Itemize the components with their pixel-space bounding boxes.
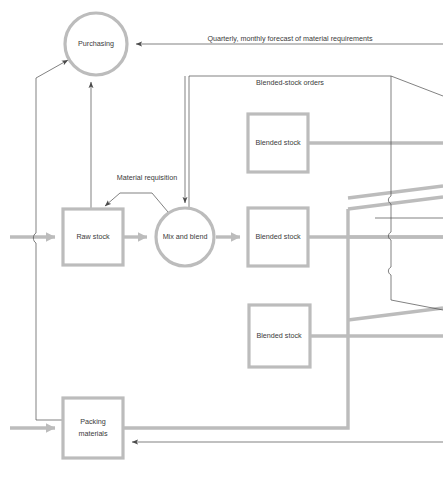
node-blended-stock-1[interactable]: Blended stock (248, 114, 308, 172)
node-packing-materials-label-line1: Packing (80, 417, 106, 426)
node-mix-and-blend[interactable]: Mix and blend (156, 208, 214, 266)
node-blended-stock-1-label: Blended stock (255, 138, 301, 147)
node-packing-materials[interactable]: Packing materials (63, 398, 123, 458)
flow-diagram-canvas: Purchasing Raw stock Mix and blend Blend… (0, 0, 443, 479)
node-purchasing-label: Purchasing (78, 39, 114, 48)
node-raw-stock-label: Raw stock (76, 232, 110, 241)
node-blended-stock-3-label: Blended stock (256, 331, 302, 340)
label-material-requisition: Material requisition (117, 173, 177, 182)
node-blended-stock-2[interactable]: Blended stock (248, 208, 308, 266)
node-packing-materials-label-line2: materials (78, 429, 108, 438)
label-forecast: Quarterly, monthly forecast of material … (207, 34, 373, 43)
node-purchasing[interactable]: Purchasing (65, 13, 127, 75)
flow-blendedstock1-branch (348, 186, 443, 198)
flow-packing-branch-lower (348, 308, 443, 320)
process-flow-diagram: Purchasing Raw stock Mix and blend Blend… (0, 0, 443, 479)
flow-packing-branch-upper (348, 197, 443, 209)
node-blended-stock-3[interactable]: Blended stock (249, 305, 310, 367)
node-blended-stock-2-label: Blended stock (255, 232, 301, 241)
label-blended-stock-orders: Blended-stock orders (256, 78, 324, 87)
flow-blended-stock-orders (189, 76, 443, 310)
node-raw-stock[interactable]: Raw stock (63, 209, 123, 265)
node-mix-and-blend-label: Mix and blend (163, 232, 208, 241)
